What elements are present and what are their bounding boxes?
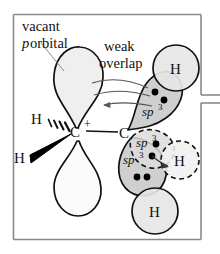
sp3-upper-base: sp [142, 104, 154, 119]
sp3-dashed-exponent: 3 [152, 133, 157, 143]
electron-dot [134, 174, 141, 181]
vacant-label: vacant [22, 18, 60, 34]
c-c-bond [86, 131, 118, 132]
overlap-label: overlap [99, 55, 142, 71]
p-orbital-label: orbital [30, 35, 68, 51]
h-bottom-label: H [149, 204, 160, 220]
cation-carbon-label: C [70, 124, 80, 140]
sp3-lower-base: sp [123, 152, 135, 167]
h-hashed-label: H [31, 111, 42, 127]
h-dashed-label: H [174, 153, 185, 169]
p-orbital-italic-p: p [21, 35, 29, 51]
electron-dot [144, 174, 151, 181]
electron-dot [152, 89, 159, 96]
sp3-dashed-base: sp [136, 135, 148, 150]
beta-carbon-label: C [119, 125, 129, 141]
sp3-lower-exponent: 3 [139, 150, 144, 160]
h-wedge-label: H [14, 150, 25, 166]
hyperconjugation-diagram: vacant p orbital weak overlap sp 3 sp 3 … [0, 0, 220, 254]
figure-root: vacant p orbital weak overlap sp 3 sp 3 … [0, 0, 220, 254]
h-top-right-label: H [170, 61, 181, 77]
sp3-upper-exponent: 3 [158, 102, 163, 112]
weak-label: weak [104, 38, 135, 54]
cation-charge-label: + [84, 117, 91, 131]
